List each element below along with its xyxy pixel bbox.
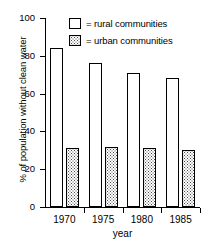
y-tick-mark bbox=[40, 94, 45, 95]
x-tick-mark bbox=[200, 208, 201, 213]
y-tick-mark bbox=[40, 56, 45, 57]
bar-urban-1980 bbox=[143, 148, 156, 207]
x-category-label-1985: 1985 bbox=[170, 214, 192, 225]
y-tick-label: 80 bbox=[11, 50, 35, 61]
y-tick-mark bbox=[40, 169, 45, 170]
legend-label-urban: = urban communities bbox=[86, 35, 173, 46]
y-tick-label: 20 bbox=[11, 163, 35, 174]
bar-urban-1975 bbox=[105, 147, 118, 207]
bar-rural-1985 bbox=[166, 78, 179, 207]
y-tick-label: 100 bbox=[11, 12, 35, 23]
y-tick-label: 60 bbox=[11, 88, 35, 99]
x-tick-mark bbox=[123, 208, 124, 213]
legend-label-rural: = rural communities bbox=[86, 18, 167, 29]
bar-rural-1980 bbox=[127, 73, 140, 207]
legend-swatch-rural bbox=[69, 18, 81, 29]
x-category-label-1970: 1970 bbox=[53, 214, 75, 225]
x-category-label-1975: 1975 bbox=[92, 214, 114, 225]
y-axis-line bbox=[45, 18, 46, 208]
bar-rural-1970 bbox=[50, 48, 63, 207]
chart-legend: = rural communities= urban communities bbox=[69, 16, 173, 50]
x-tick-mark bbox=[84, 208, 85, 213]
y-axis-title: % of population without clean water bbox=[17, 17, 28, 203]
y-tick-label: 40 bbox=[11, 125, 35, 136]
y-tick-mark bbox=[40, 207, 45, 208]
x-category-label-1980: 1980 bbox=[131, 214, 153, 225]
y-tick-mark bbox=[40, 18, 45, 19]
x-axis-title: year bbox=[45, 228, 200, 239]
bar-urban-1985 bbox=[182, 150, 195, 207]
y-tick-label: 0 bbox=[11, 201, 35, 212]
legend-item-urban: = urban communities bbox=[69, 33, 173, 48]
legend-item-rural: = rural communities bbox=[69, 16, 173, 31]
bar-urban-1970 bbox=[66, 148, 79, 207]
legend-swatch-urban bbox=[69, 35, 81, 46]
bar-chart-figure: % of population without clean water 0204… bbox=[0, 0, 205, 249]
bar-rural-1975 bbox=[89, 63, 102, 207]
x-tick-mark bbox=[161, 208, 162, 213]
y-tick-mark bbox=[40, 131, 45, 132]
